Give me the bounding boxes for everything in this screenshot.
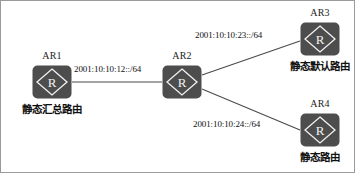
- node-ar3[interactable]: AR3 R 静态默认路由: [300, 22, 340, 56]
- node-ar4-title: AR4: [310, 98, 330, 109]
- node-ar2-title: AR2: [172, 50, 192, 61]
- node-ar1-title: AR1: [42, 50, 62, 61]
- svg-text:R: R: [178, 75, 187, 90]
- node-ar3-title: AR3: [310, 7, 330, 18]
- node-ar4[interactable]: AR4 R 静态路由: [300, 113, 340, 147]
- svg-text:R: R: [48, 75, 57, 90]
- router-icon: R: [300, 113, 340, 147]
- node-ar1[interactable]: AR1 R 静态汇总路由: [32, 65, 72, 99]
- router-icon: R: [32, 65, 72, 99]
- router-icon: R: [162, 65, 202, 99]
- link-label-ar1-ar2: 2001:10:10:12::/64: [74, 64, 141, 74]
- node-ar3-caption: 静态默认路由: [290, 58, 350, 73]
- svg-text:R: R: [316, 32, 325, 47]
- svg-text:R: R: [316, 123, 325, 138]
- node-ar1-caption: 静态汇总路由: [22, 101, 82, 116]
- link-label-ar2-ar4: 2001:10:10:24::/64: [193, 119, 260, 129]
- network-topology-diagram: 2001:10:10:12::/64 2001:10:10:23::/64 20…: [0, 0, 355, 173]
- link-ar2-ar3: [202, 41, 300, 75]
- link-label-ar2-ar3: 2001:10:10:23::/64: [195, 30, 262, 40]
- node-ar2[interactable]: AR2 R: [162, 65, 202, 99]
- router-icon: R: [300, 22, 340, 56]
- node-ar4-caption: 静态路由: [300, 149, 340, 164]
